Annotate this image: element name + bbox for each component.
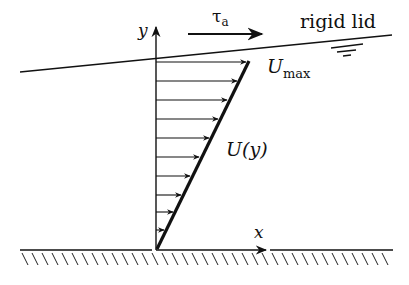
profile-label: U(y) [226, 138, 268, 160]
velocity-profile-diagram [0, 0, 409, 285]
rigid-lid-line [20, 35, 392, 72]
stress-subscript: a [221, 15, 228, 29]
x-axis-label: x [254, 222, 264, 242]
stress-label: τa [212, 6, 229, 29]
y-axis-label: y [138, 20, 148, 40]
umax-symbol: U [267, 55, 283, 77]
stress-symbol: τ [212, 6, 221, 26]
water-surface-symbol [331, 44, 363, 56]
ground-hatching [22, 253, 388, 265]
umax-subscript: max [283, 66, 310, 81]
rigid-lid-label: rigid lid [300, 10, 376, 32]
umax-label: Umax [267, 55, 310, 81]
